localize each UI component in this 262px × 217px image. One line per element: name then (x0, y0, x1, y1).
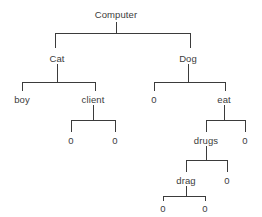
tree-node-dog: Dog (179, 53, 197, 64)
tree-node-client0a: 0 (68, 135, 73, 146)
tree-node-drag: drag (176, 175, 195, 186)
tree-node-boy: boy (14, 94, 30, 105)
tree-node-cat: Cat (49, 53, 64, 64)
tree-node-dog0: 0 (151, 94, 156, 105)
tree-node-client: client (82, 94, 105, 105)
tree-node-drag0a: 0 (160, 203, 165, 214)
tree-node-client0b: 0 (112, 135, 117, 146)
tree-node-drag0b: 0 (202, 203, 207, 214)
tree-node-drugs0: 0 (224, 175, 229, 186)
tree-node-drugs: drugs (194, 135, 218, 146)
tree-node-computer: Computer (95, 9, 138, 20)
tree-node-eat: eat (217, 94, 231, 105)
tree-edges-canvas (0, 0, 262, 217)
tree-node-eat0: 0 (242, 135, 247, 146)
